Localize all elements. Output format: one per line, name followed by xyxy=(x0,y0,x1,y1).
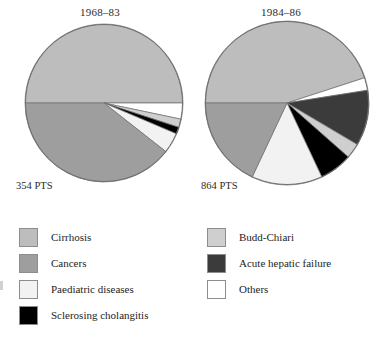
chart-title-period-1: 1968–83 xyxy=(0,6,200,18)
legend-item-label: Acute hepatic failure xyxy=(239,258,331,269)
pie-chart-1968-83 xyxy=(24,23,184,183)
page-edge-artifact xyxy=(0,281,3,290)
legend-item: Others xyxy=(207,276,376,302)
swatch-paediatric-diseases xyxy=(19,280,38,299)
legend-item: Cirrhosis xyxy=(19,224,199,250)
legend-item-label: Cirrhosis xyxy=(51,232,91,243)
legend-item: Budd-Chiari xyxy=(207,224,376,250)
swatch-cancers xyxy=(19,254,38,273)
chart-title-period-2: 1984–86 xyxy=(186,6,376,18)
legend-item-label: Others xyxy=(239,284,268,295)
legend-item: Acute hepatic failure xyxy=(207,250,376,276)
legend-item-label: Cancers xyxy=(51,258,86,269)
swatch-sclerosing-cholangitis xyxy=(19,306,38,325)
figure-root: 1968–83 1984–86 354 PTS 864 PTS Cirrhosi… xyxy=(0,0,376,341)
legend-column-left: CirrhosisCancersPaediatric diseasesScler… xyxy=(19,224,199,328)
pie-chart-1984-86 xyxy=(204,20,370,186)
legend: CirrhosisCancersPaediatric diseasesScler… xyxy=(0,224,376,341)
legend-item-label: Paediatric diseases xyxy=(51,284,134,295)
pie-svg-2 xyxy=(204,20,370,186)
legend-item: Cancers xyxy=(19,250,199,276)
swatch-budd-chiari xyxy=(207,228,226,247)
patient-total-1984-86: 864 PTS xyxy=(201,180,237,191)
legend-item: Sclerosing cholangitis xyxy=(19,302,199,328)
patient-total-1968-83: 354 PTS xyxy=(16,180,52,191)
pie-slice xyxy=(25,24,183,103)
swatch-others xyxy=(207,280,226,299)
legend-item: Paediatric diseases xyxy=(19,276,199,302)
legend-item-label: Budd-Chiari xyxy=(239,232,294,243)
swatch-acute-hepatic-failure xyxy=(207,254,226,273)
pie-svg-1 xyxy=(24,23,184,183)
legend-column-right: Budd-ChiariAcute hepatic failureOthers xyxy=(207,224,376,302)
swatch-cirrhosis xyxy=(19,228,38,247)
legend-item-label: Sclerosing cholangitis xyxy=(51,310,148,321)
